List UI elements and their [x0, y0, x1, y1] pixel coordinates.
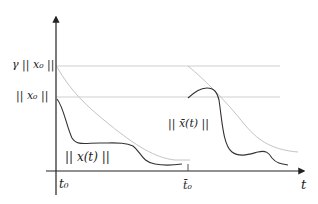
- x0-label: || x₀ ||: [16, 90, 48, 101]
- t0-label: t₀: [59, 178, 69, 190]
- envelope-curve-1: [57, 67, 190, 160]
- envelope-curve-2: [188, 66, 298, 152]
- stability-diagram: [0, 0, 318, 204]
- t0-bar-label: t̄₀: [183, 180, 192, 191]
- x-t-label: || x(t) ||: [65, 151, 110, 163]
- xbar-t-label: || x̄(t) ||: [168, 118, 209, 129]
- gamma-x0-label: γ || x₀ ||: [12, 59, 55, 70]
- t-axis-label: t: [301, 178, 306, 191]
